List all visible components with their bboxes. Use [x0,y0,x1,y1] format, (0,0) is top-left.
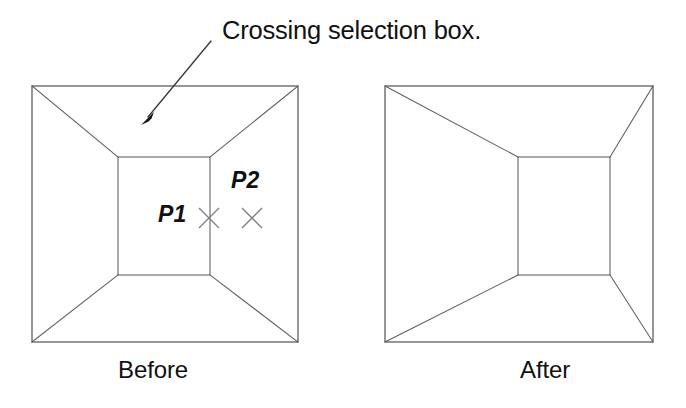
before-diagonal-top-left [32,86,118,157]
crossing-selection-caption: Crossing selection box. [222,18,481,44]
point-p2-marker [242,208,262,228]
before-diagonal-bottom-right [210,275,298,342]
after-diagonal-top-left [385,86,518,157]
after-outer-rect [385,86,653,342]
before-diagonal-top-right [210,86,298,157]
point-p1-marker [199,208,219,228]
point-label-p1: P1 [158,203,187,226]
figure-root: Crossing selection box. P1 P2 Before Aft… [0,0,686,408]
after-diagonal-bottom-left [385,275,518,342]
point-label-p2: P2 [231,169,260,192]
after-panel-geometry [385,86,653,342]
before-diagonal-bottom-left [32,275,118,342]
after-diagonal-bottom-right [610,275,653,342]
after-inner-rect [518,157,610,275]
diagram-canvas [0,0,686,408]
leader-line [148,41,211,117]
pick-point-markers [199,208,262,228]
caption-leader [141,41,211,125]
after-diagonal-top-right [610,86,653,157]
panel-caption-after: After [520,358,570,382]
panel-caption-before: Before [118,358,188,382]
arrow-head-icon [141,112,154,125]
